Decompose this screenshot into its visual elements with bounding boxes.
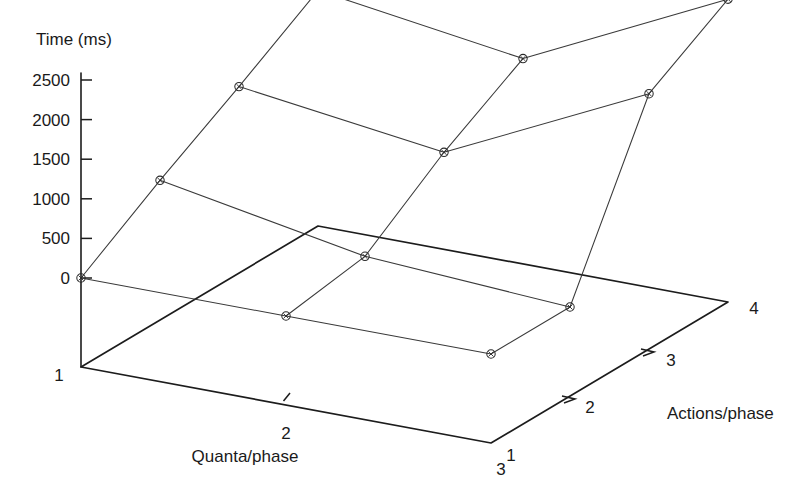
z-tick-label-2000: 2000 — [32, 111, 70, 130]
mesh-row-quanta-2 — [286, 59, 523, 316]
base-plane-outline — [81, 226, 728, 443]
x-axis-title: Quanta/phase — [192, 447, 299, 466]
mesh-row-quanta-1 — [81, 0, 318, 278]
data-point-markers — [77, 0, 732, 358]
data-point-marker — [440, 148, 448, 156]
y-tick-label-2: 2 — [585, 398, 594, 417]
x-axis-ticks — [284, 393, 291, 401]
mesh-col-actions-4 — [318, 0, 728, 59]
x-tick-label-3: 3 — [496, 460, 505, 479]
data-point-marker — [566, 303, 574, 311]
plot-text-layer: 25002000150010005000Time (ms)123Quanta/p… — [32, 30, 774, 479]
z-axis-title: Time (ms) — [36, 30, 112, 49]
x-tick-label-1: 1 — [54, 366, 63, 385]
y-tick-label-1: 1 — [506, 446, 515, 465]
data-point-marker — [156, 176, 164, 184]
x-tick-2-icon — [284, 393, 291, 401]
surface-plot-figure: 25002000150010005000Time (ms)123Quanta/p… — [0, 0, 795, 489]
mesh-row-quanta-3 — [491, 0, 728, 354]
surface-mesh — [81, 0, 728, 354]
z-tick-label-0: 0 — [61, 269, 70, 288]
z-tick-label-500: 500 — [42, 229, 70, 248]
z-tick-label-1000: 1000 — [32, 190, 70, 209]
x-tick-label-2: 2 — [281, 424, 290, 443]
y-axis-title: Actions/phase — [667, 404, 774, 423]
data-point-marker — [519, 54, 527, 62]
data-point-marker — [282, 312, 290, 320]
z-axis-group — [81, 73, 92, 367]
y-tick-label-4: 4 — [749, 299, 758, 318]
y-axis-ticks — [562, 349, 654, 403]
data-point-marker — [487, 350, 495, 358]
data-point-marker — [235, 82, 243, 90]
data-point-marker — [361, 252, 369, 260]
z-tick-label-2500: 2500 — [32, 71, 70, 90]
mesh-col-actions-3 — [239, 87, 649, 153]
plot-canvas: 25002000150010005000Time (ms)123Quanta/p… — [0, 0, 795, 489]
z-tick-label-1500: 1500 — [32, 150, 70, 169]
data-point-marker — [645, 90, 653, 98]
z-axis-ticks — [81, 80, 92, 278]
mesh-col-actions-2 — [160, 180, 570, 307]
base-plane-edge — [81, 226, 728, 443]
y-tick-label-3: 3 — [666, 351, 675, 370]
